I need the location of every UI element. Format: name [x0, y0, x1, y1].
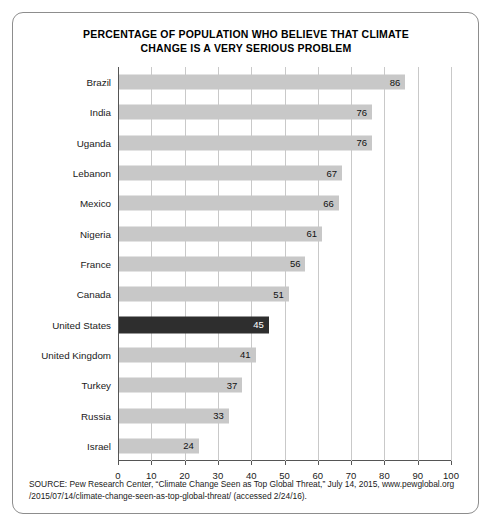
tick-mark-40 [251, 461, 252, 465]
tick-mark-80 [384, 461, 385, 465]
bar-row: Israel24 [118, 431, 451, 461]
chart-title-line-2: CHANGE IS A VERY SERIOUS PROBLEM [41, 41, 451, 55]
bar-row: Brazil86 [118, 67, 451, 97]
bar-uganda: 76 [119, 135, 372, 150]
bar-value-label: 86 [390, 77, 401, 87]
bar-value-label: 56 [290, 259, 301, 269]
tick-mark-10 [151, 461, 152, 465]
tick-mark-100 [451, 461, 452, 465]
category-label-turkey: Turkey [81, 380, 111, 391]
tick-mark-0 [118, 461, 119, 465]
bar-row: Lebanon67 [118, 158, 451, 188]
category-label-nigeria: Nigeria [80, 228, 111, 239]
bar-row: United States45 [118, 309, 451, 339]
tick-mark-20 [185, 461, 186, 465]
bar-value-label: 45 [253, 320, 264, 330]
bar-value-label: 76 [357, 108, 368, 118]
chart-title: PERCENTAGE OF POPULATION WHO BELIEVE THA… [41, 27, 451, 55]
category-label-russia: Russia [81, 410, 111, 421]
bar-row: Nigeria61 [118, 219, 451, 249]
plot-area: 0102030405060708090100 Brazil86India76Ug… [118, 67, 451, 461]
bar-lebanon: 67 [119, 166, 342, 181]
source-note: SOURCE: Pew Research Center, “Climate Ch… [29, 479, 459, 502]
bar-row: Russia33 [118, 400, 451, 430]
bar-united-kingdom: 41 [119, 347, 256, 362]
bar-france: 56 [119, 256, 305, 271]
tick-mark-30 [218, 461, 219, 465]
bar-row: Uganda76 [118, 128, 451, 158]
category-label-uganda: Uganda [77, 137, 111, 148]
bar-mexico: 66 [119, 196, 339, 211]
gridline-100 [451, 67, 452, 461]
category-label-brazil: Brazil [87, 77, 112, 88]
bar-value-label: 37 [227, 380, 238, 390]
bar-russia: 33 [119, 408, 229, 423]
bar-value-label: 76 [357, 138, 368, 148]
bar-value-label: 41 [240, 350, 251, 360]
bar-row: India76 [118, 97, 451, 127]
bar-israel: 24 [119, 438, 199, 453]
category-label-israel: Israel [87, 440, 111, 451]
bar-row: United Kingdom41 [118, 340, 451, 370]
tick-mark-70 [351, 461, 352, 465]
bar-india: 76 [119, 105, 372, 120]
bar-nigeria: 61 [119, 226, 322, 241]
source-note-line-1: SOURCE: Pew Research Center, “Climate Ch… [29, 479, 459, 491]
bar-value-label: 66 [323, 199, 334, 209]
bar-value-label: 33 [213, 411, 224, 421]
bar-row: Canada51 [118, 279, 451, 309]
bar-brazil: 86 [119, 75, 405, 90]
category-label-united-kingdom: United Kingdom [41, 349, 111, 360]
source-note-line-2: /2015/07/14/climate-change-seen-as-top-g… [29, 491, 459, 503]
category-label-united-states: United States [52, 319, 111, 330]
category-label-canada: Canada [77, 289, 111, 300]
bar-value-label: 24 [183, 441, 194, 451]
bar-row: France56 [118, 249, 451, 279]
bar-canada: 51 [119, 287, 289, 302]
tick-mark-90 [418, 461, 419, 465]
bar-value-label: 67 [327, 168, 338, 178]
category-label-india: India [90, 107, 111, 118]
bar-turkey: 37 [119, 378, 242, 393]
tick-mark-60 [318, 461, 319, 465]
category-label-lebanon: Lebanon [73, 168, 111, 179]
bar-value-label: 51 [273, 290, 284, 300]
bar-value-label: 61 [307, 229, 318, 239]
category-label-mexico: Mexico [80, 198, 111, 209]
bar-row: Turkey37 [118, 370, 451, 400]
chart-title-line-1: PERCENTAGE OF POPULATION WHO BELIEVE THA… [41, 27, 451, 41]
tick-mark-50 [285, 461, 286, 465]
bar-united-states: 45 [119, 316, 269, 333]
figure-frame: PERCENTAGE OF POPULATION WHO BELIEVE THA… [12, 12, 479, 514]
category-label-france: France [81, 258, 112, 269]
bar-row: Mexico66 [118, 188, 451, 218]
